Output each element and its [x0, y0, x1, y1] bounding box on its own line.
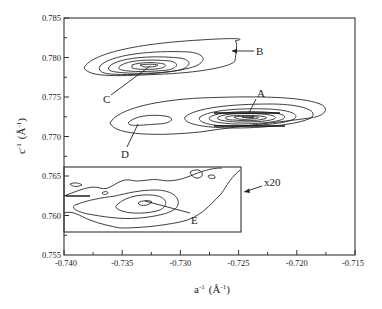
inset-frame	[64, 167, 241, 232]
contour-chart: 0.785 0.780 0.775 0.770 0.765 0.760 0.75…	[0, 0, 382, 309]
y-tick-label: 0.775	[42, 92, 61, 102]
x-tick-label: -0.715	[342, 258, 364, 268]
label-peak-c: C	[103, 93, 110, 105]
x-tick-label: -0.730	[169, 258, 191, 268]
upper-peak-contours	[84, 39, 240, 76]
y-tick-label: 0.780	[42, 53, 61, 63]
x-tick-label: -0.725	[228, 258, 250, 268]
x-tick-label: -0.740	[55, 258, 77, 268]
label-peak-d: D	[121, 148, 129, 160]
inset-contours	[64, 168, 240, 228]
lower-peak-contours	[110, 97, 325, 134]
y-axis-title: c-1(Å-1)	[15, 118, 28, 154]
x-axis-title: a-1(Å-1)	[194, 283, 230, 296]
x-axis-ticks	[64, 250, 355, 255]
label-peak-e: E	[191, 214, 198, 226]
y-tick-label: 0.765	[42, 171, 61, 181]
y-axis-tick-labels: 0.785 0.780 0.775 0.770 0.765 0.760 0.75…	[42, 13, 61, 260]
y-tick-label: 0.760	[42, 211, 61, 221]
x-tick-label: -0.735	[111, 258, 133, 268]
label-peak-b: B	[256, 45, 263, 57]
y-axis-ticks	[64, 18, 69, 235]
y-tick-label: 0.785	[42, 13, 61, 23]
y-tick-label: 0.770	[42, 132, 61, 142]
x-tick-label: -0.720	[286, 258, 308, 268]
x-axis-tick-labels: -0.740 -0.735 -0.730 -0.725 -0.720 -0.71…	[55, 258, 364, 268]
label-peak-a: A	[257, 87, 265, 99]
label-magnification: x20	[264, 176, 281, 188]
